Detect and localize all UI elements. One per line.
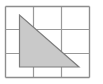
grid-triangle-figure	[0, 0, 103, 84]
figure-container	[0, 0, 103, 84]
canvas-background	[0, 0, 103, 84]
